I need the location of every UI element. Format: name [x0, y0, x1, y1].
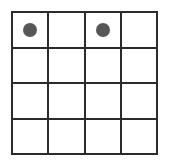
grid-row [12, 119, 157, 155]
grid-table [11, 11, 158, 155]
grid-cell-r1-c4[interactable] [121, 12, 157, 48]
grid-cell-r2-c4[interactable] [121, 48, 157, 84]
grid-row [12, 12, 157, 48]
grid-cell-r3-c3[interactable] [85, 83, 121, 119]
grid-cell-r4-c4[interactable] [121, 119, 157, 155]
grid-cell-r1-c3[interactable] [85, 12, 121, 48]
grid-cell-r3-c2[interactable] [48, 83, 84, 119]
grid-cell-r4-c2[interactable] [48, 119, 84, 155]
grid-body [12, 12, 157, 154]
grid-cell-r4-c1[interactable] [12, 119, 48, 155]
grid-cell-r1-c2[interactable] [48, 12, 84, 48]
grid-figure [11, 11, 158, 155]
grid-row [12, 83, 157, 119]
circle-marker-icon [96, 23, 110, 37]
grid-row [12, 48, 157, 84]
grid-cell-r2-c2[interactable] [48, 48, 84, 84]
grid-cell-r1-c1[interactable] [12, 12, 48, 48]
circle-marker-icon [23, 23, 37, 37]
grid-cell-r2-c1[interactable] [12, 48, 48, 84]
grid-cell-r3-c1[interactable] [12, 83, 48, 119]
grid-cell-r3-c4[interactable] [121, 83, 157, 119]
grid-cell-r4-c3[interactable] [85, 119, 121, 155]
grid-cell-r2-c3[interactable] [85, 48, 121, 84]
